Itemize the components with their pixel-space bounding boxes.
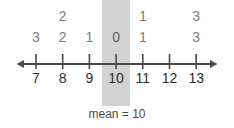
tick-label-12: 12 xyxy=(157,70,183,86)
mean-caption: mean = 10 xyxy=(0,106,234,122)
tick-marks xyxy=(36,54,196,69)
tick-label-7: 7 xyxy=(23,70,49,86)
tick-label-11: 11 xyxy=(130,70,156,86)
tick-label-9: 9 xyxy=(76,70,102,86)
tick-label-13: 13 xyxy=(183,70,209,86)
deviation-number-line-figure: 322101133 78910111213 mean = 10 xyxy=(0,0,234,128)
tick-label-8: 8 xyxy=(50,70,76,86)
tick-label-10: 10 xyxy=(103,70,129,86)
